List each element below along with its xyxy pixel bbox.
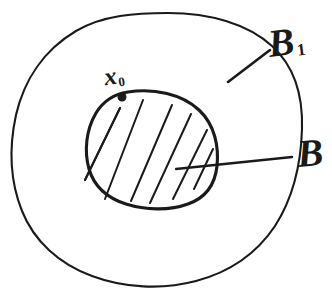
label-point-x0: x0: [102, 62, 125, 91]
label-point-x0-text: x: [102, 62, 118, 90]
point-x0-marker: [118, 93, 126, 101]
label-inner-region-text: B: [295, 130, 325, 175]
hand-drawn-set-diagram: B1 B x0: [0, 0, 332, 293]
hatch-line: [194, 149, 213, 189]
hatch-line: [131, 105, 172, 201]
label-inner-region: B: [295, 132, 324, 173]
label-outer-region-text: B: [266, 19, 297, 65]
label-outer-region: B1: [266, 20, 307, 63]
outer-region-boundary: [12, 13, 302, 287]
inner-region-hatching: [85, 100, 213, 203]
leader-line-to-outer-region: [228, 50, 270, 82]
hatch-line: [150, 114, 191, 203]
hatch-line: [85, 108, 120, 180]
